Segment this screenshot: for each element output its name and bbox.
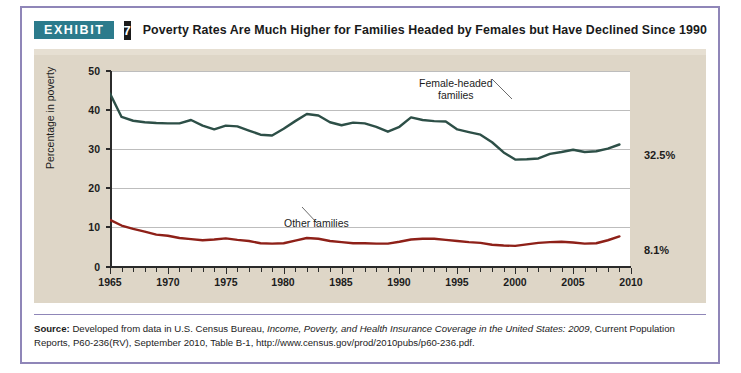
x-tick-1969 [156,268,157,272]
annotation-other-line1: Other families [284,217,349,229]
x-tick-1984 [330,268,331,272]
x-tick-2005 [573,268,574,274]
y-tick-label-0: 0 [78,261,100,273]
x-tick-2003 [550,268,551,272]
exhibit-title: Poverty Rates Are Much Higher for Famili… [143,23,707,37]
x-tick-1995 [457,268,458,274]
y-axis-title: Percentage in poverty [44,67,56,169]
x-tick-1974 [214,268,215,272]
x-tick-1991 [411,268,412,272]
x-tick-2006 [585,268,586,272]
end-value-label-other-families: 8.1% [644,244,669,256]
x-tick-1966 [122,268,123,272]
x-tick-label-1980: 1980 [271,276,294,288]
x-tick-1976 [237,268,238,272]
series-svg [110,71,631,267]
x-tick-2007 [596,268,597,272]
y-tick-label-20: 20 [78,182,100,194]
x-tick-2000 [515,268,516,274]
x-tick-label-1970: 1970 [156,276,179,288]
x-tick-1975 [226,268,227,274]
exhibit-header: EXHIBIT 7 Poverty Rates Are Much Higher … [34,18,706,42]
x-tick-label-1985: 1985 [329,276,352,288]
x-tick-1999 [504,268,505,272]
source-note: Source: Developed from data in U.S. Cens… [34,322,710,350]
exhibit-page: EXHIBIT 7 Poverty Rates Are Much Higher … [0,0,741,373]
x-tick-1973 [203,268,204,272]
x-tick-1971 [179,268,180,272]
x-tick-1977 [249,268,250,272]
x-tick-2008 [608,268,609,272]
x-tick-1982 [307,268,308,272]
source-text-1: Developed from data in U.S. Census Burea… [70,323,267,334]
x-tick-label-1990: 1990 [387,276,410,288]
y-tick-label-30: 30 [78,143,100,155]
series-line-female-headed-families [110,94,619,160]
end-value-label-female-headed: 32.5% [644,149,675,161]
x-tick-1997 [480,268,481,272]
x-tick-2004 [562,268,563,272]
x-tick-2009 [619,268,620,272]
annotation-female-line1: Female-headedfamilies [419,77,493,101]
leader-line-female [492,79,512,99]
x-tick-label-2000: 2000 [503,276,526,288]
x-tick-1996 [469,268,470,272]
series-line-other-families [110,220,619,246]
source-label: Source: [34,323,70,334]
annotation-female-headed-families: Female-headedfamilies [419,77,493,101]
x-tick-1987 [365,268,366,272]
x-tick-2010 [631,268,632,274]
x-tick-label-1995: 1995 [445,276,468,288]
x-tick-1972 [191,268,192,272]
x-tick-label-1965: 1965 [98,276,121,288]
x-tick-1988 [376,268,377,272]
x-tick-1986 [353,268,354,272]
y-tick-label-10: 10 [78,221,100,233]
x-tick-1965 [110,268,111,274]
x-tick-1967 [133,268,134,272]
x-tick-1983 [318,268,319,272]
x-tick-1992 [423,268,424,272]
x-tick-1970 [168,268,169,274]
x-tick-1993 [434,268,435,272]
x-tick-1998 [492,268,493,272]
x-tick-label-2005: 2005 [561,276,584,288]
y-tick-label-50: 50 [78,65,100,77]
x-tick-1979 [272,268,273,272]
exhibit-badge: EXHIBIT [34,21,114,40]
source-divider [34,314,706,315]
x-tick-1989 [388,268,389,272]
x-tick-label-2010: 2010 [619,276,642,288]
annotation-other-families: Other families [284,217,349,229]
x-tick-2001 [527,268,528,272]
x-tick-1980 [284,268,285,274]
x-tick-label-1975: 1975 [214,276,237,288]
x-tick-1994 [446,268,447,272]
x-tick-1968 [145,268,146,272]
exhibit-number-badge: 7 [124,21,131,40]
x-tick-1990 [399,268,400,274]
x-tick-1978 [261,268,262,272]
exhibit-frame: EXHIBIT 7 Poverty Rates Are Much Higher … [20,6,720,364]
chart-panel: 50 40 30 20 10 0 Percentage in poverty 1… [34,49,706,303]
source-publication-title: Income, Poverty, and Health Insurance Co… [267,323,589,334]
y-tick-label-40: 40 [78,104,100,116]
x-tick-2002 [538,268,539,272]
x-tick-1985 [342,268,343,274]
x-tick-1981 [295,268,296,272]
